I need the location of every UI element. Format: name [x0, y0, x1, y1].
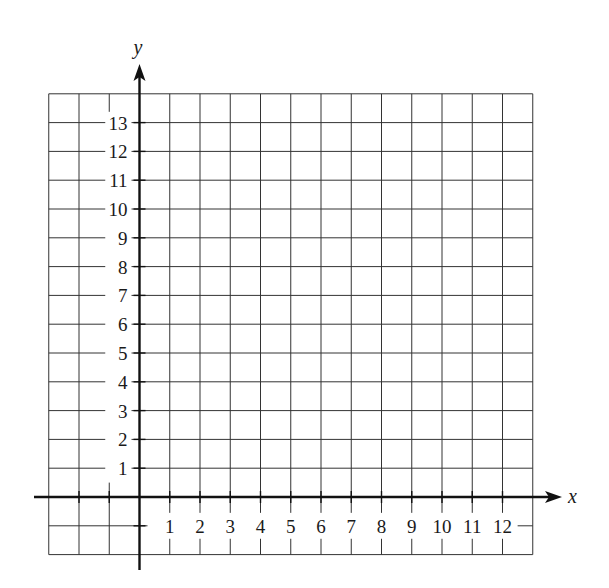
- y-tick-label: 2: [118, 429, 128, 450]
- y-tick-label: 10: [109, 199, 128, 220]
- x-tick-label: 3: [226, 516, 236, 537]
- y-tick-label: 3: [118, 401, 128, 422]
- x-tick-label: 10: [433, 516, 452, 537]
- x-tick-label: 9: [407, 516, 417, 537]
- y-axis-label: y: [132, 36, 143, 59]
- x-tick-label: 12: [493, 516, 512, 537]
- y-tick-label: 8: [118, 257, 128, 278]
- y-tick-label: 4: [118, 372, 128, 393]
- x-tick-label: 1: [165, 516, 175, 537]
- coordinate-plane: 12345678910111212345678910111213 x y: [0, 0, 609, 588]
- x-axis-label: x: [567, 485, 577, 507]
- y-tick-label: 9: [118, 228, 128, 249]
- y-tick-label: 7: [118, 285, 128, 306]
- label-masks: [105, 112, 517, 539]
- x-tick-label: 6: [316, 516, 326, 537]
- y-tick-label: 12: [109, 141, 128, 162]
- y-tick-label: 5: [118, 343, 128, 364]
- y-tick-label: 11: [109, 170, 127, 191]
- x-tick-label: 11: [463, 516, 481, 537]
- x-tick-label: 2: [195, 516, 205, 537]
- x-tick-label: 7: [347, 516, 357, 537]
- y-tick-label: 13: [109, 113, 128, 134]
- x-tick-label: 4: [256, 516, 266, 537]
- y-tick-label: 6: [118, 314, 128, 335]
- x-tick-label: 8: [377, 516, 387, 537]
- x-tick-label: 5: [286, 516, 296, 537]
- y-tick-label: 1: [118, 458, 128, 479]
